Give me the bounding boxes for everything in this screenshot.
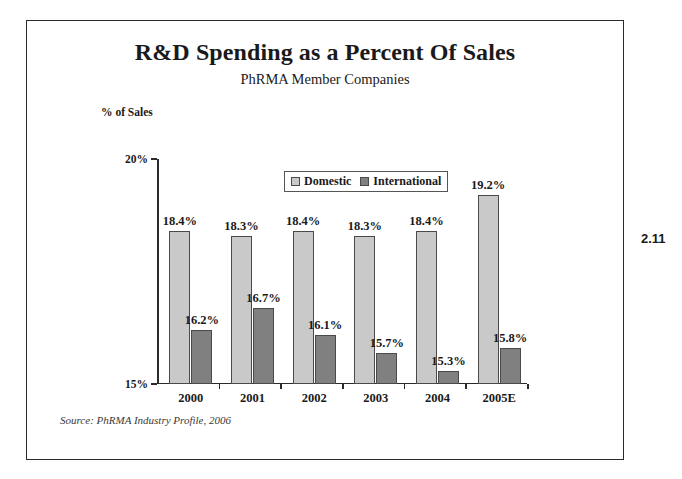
y-axis-label: % of Sales: [101, 106, 153, 118]
bar-value-label: 16.1%: [308, 318, 342, 333]
bar-international-2000[interactable]: 16.2%: [191, 330, 212, 384]
bar-domestic-2000[interactable]: 18.4%: [169, 231, 190, 384]
x-tick-mark: [280, 384, 282, 389]
x-tick-mark: [465, 384, 467, 389]
bar-value-label: 19.2%: [471, 178, 505, 193]
bar-value-label: 16.7%: [246, 291, 280, 306]
bar-value-label: 16.2%: [185, 313, 219, 328]
bar-group: 18.3%16.7%2001: [231, 159, 274, 384]
bar-domestic-2005e[interactable]: 19.2%: [478, 195, 499, 384]
y-tick-mark: [151, 383, 157, 385]
bar-international-2002[interactable]: 16.1%: [315, 335, 336, 385]
bar-value-label: 18.3%: [348, 219, 382, 234]
source-note: Source: PhRMA Industry Profile, 2006: [60, 414, 231, 426]
x-tick-mark: [404, 384, 406, 389]
chart-title: R&D Spending as a Percent Of Sales: [27, 39, 623, 66]
x-tick-mark: [219, 384, 221, 389]
figure-number: 2.11: [641, 231, 666, 246]
x-tick-label-2001: 2001: [240, 391, 265, 406]
plot-area: 15%20% 18.4%16.2%200018.3%16.7%200118.4%…: [157, 159, 527, 384]
bar-domestic-2002[interactable]: 18.4%: [293, 231, 314, 384]
bar-group: 18.4%16.1%2002: [293, 159, 336, 384]
figure-frame: R&D Spending as a Percent Of Sales PhRMA…: [26, 20, 624, 460]
bar-value-label: 18.4%: [163, 214, 197, 229]
bar-value-label: 15.7%: [370, 336, 404, 351]
x-tick-label-2003: 2003: [363, 391, 388, 406]
bar-value-label: 15.3%: [431, 354, 465, 369]
x-tick-label-2004: 2004: [425, 391, 450, 406]
bar-group: 19.2%15.8%2005E: [478, 159, 521, 384]
x-tick-label-2000: 2000: [178, 391, 203, 406]
bar-international-2001[interactable]: 16.7%: [253, 308, 274, 385]
bar-domestic-2001[interactable]: 18.3%: [231, 236, 252, 385]
bar-value-label: 18.4%: [409, 214, 443, 229]
x-tick-mark: [527, 384, 529, 389]
bar-group: 18.3%15.7%2003: [354, 159, 397, 384]
bar-domestic-2003[interactable]: 18.3%: [354, 236, 375, 385]
bar-group: 18.4%16.2%2000: [169, 159, 212, 384]
x-tick-label-2002: 2002: [302, 391, 327, 406]
y-axis-line: [157, 159, 159, 384]
bar-international-2003[interactable]: 15.7%: [376, 353, 397, 385]
chart-subtitle: PhRMA Member Companies: [27, 71, 623, 88]
x-tick-mark: [342, 384, 344, 389]
bar-group: 18.4%15.3%2004: [416, 159, 459, 384]
bar-value-label: 15.8%: [493, 331, 527, 346]
y-tick-label: 15%: [125, 378, 148, 390]
bar-value-label: 18.3%: [224, 219, 258, 234]
x-tick-label-2005e: 2005E: [482, 391, 515, 406]
bar-value-label: 18.4%: [286, 214, 320, 229]
y-tick-label: 20%: [125, 153, 148, 165]
y-tick-mark: [151, 158, 157, 160]
bar-international-2005e[interactable]: 15.8%: [500, 348, 521, 384]
bar-international-2004[interactable]: 15.3%: [438, 371, 459, 385]
